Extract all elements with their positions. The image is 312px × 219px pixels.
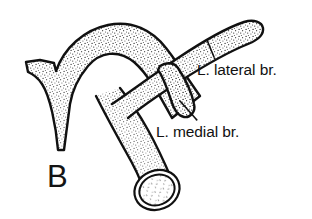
figure-container: L. lateral br. L. medial br. B [0, 0, 312, 219]
label-lateral-branch: L. lateral br. [197, 62, 277, 78]
panel-letter-label: B [47, 161, 68, 192]
label-medial-branch: L. medial br. [156, 124, 239, 140]
